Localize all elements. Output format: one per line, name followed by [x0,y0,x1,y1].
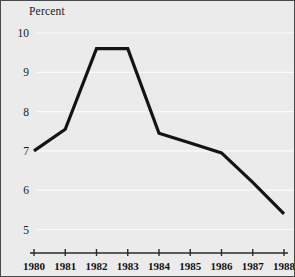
x-axis-tick-label: 1980 [23,260,45,272]
x-axis-tick-label: 1985 [179,260,201,272]
y-axis-tick-label: 5 [7,224,29,236]
x-axis-tick-label: 1986 [211,260,233,272]
x-axis-tick-label: 1982 [86,260,108,272]
x-axis-tick-label: 1981 [54,260,76,272]
y-axis-title: Percent [29,5,65,17]
gridlines [37,33,295,230]
y-axis-tick-label: 10 [7,27,29,39]
x-axis-tick-label: 1988 [273,260,295,272]
data-series-line [34,49,284,214]
series-line [34,49,284,214]
y-axis-tick-label: 8 [7,106,29,118]
chart-plot-area [1,1,295,277]
y-axis-tick-label: 9 [7,66,29,78]
x-axis-tick-label: 1984 [148,260,170,272]
y-axis-tick-label: 6 [7,184,29,196]
y-axis-tick-label: 7 [7,145,29,157]
x-axis-tick-label: 1983 [117,260,139,272]
x-axis-tick-label: 1987 [242,260,264,272]
chart-container: Percent 1098765 198019811982198319841985… [0,0,295,277]
